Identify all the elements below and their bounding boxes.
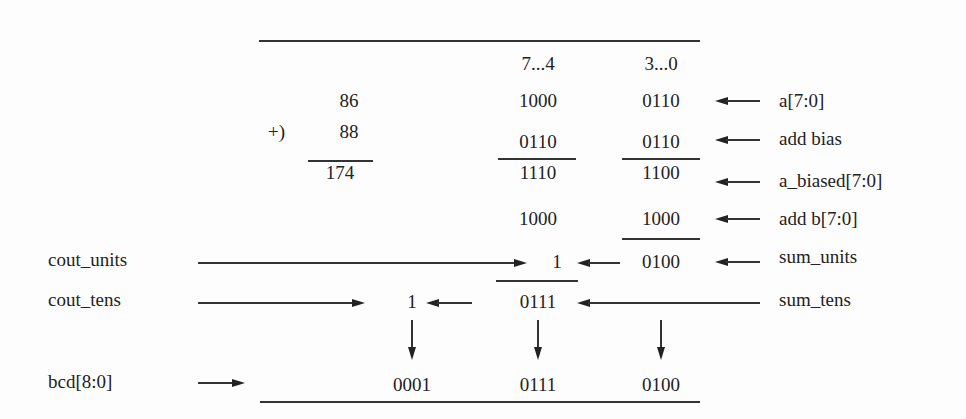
arrow-shaft (537, 320, 539, 348)
label-sum-units: sum_units (779, 246, 857, 268)
label-cout-units: cout_units (48, 249, 127, 271)
arrow-shaft (660, 320, 662, 348)
label-biased: a_biased[7:0] (779, 170, 882, 192)
arrow-shaft (398, 262, 514, 264)
label-bias: add bias (779, 128, 842, 150)
header-bits-7-4: 7...4 (521, 53, 554, 75)
decimal-sum: 174 (326, 162, 355, 184)
units-low: 0100 (642, 251, 680, 273)
bottom-rule (260, 401, 700, 403)
arrow-shaft (588, 262, 620, 264)
header-bits-3-0: 3...0 (644, 53, 677, 75)
bcd-hundreds: 0001 (393, 374, 431, 396)
tens-carry: 1 (407, 291, 417, 313)
a-high: 1000 (519, 90, 557, 112)
arrow-shaft (437, 302, 472, 304)
arrow-shaft (726, 139, 760, 141)
b-high: 1000 (519, 208, 557, 230)
arrow-shaft (198, 302, 352, 304)
arrow-shaft (588, 302, 760, 304)
arrow-shaft (198, 382, 232, 384)
bias-high: 0110 (519, 131, 556, 153)
arrow-down-icon (657, 347, 665, 360)
bcd-units: 0100 (642, 374, 680, 396)
bcd-tens: 0111 (520, 374, 557, 396)
units-carry: 1 (552, 251, 562, 273)
arrow-right-icon (352, 299, 365, 307)
arrow-right-icon (232, 379, 245, 387)
units-carry-rule (496, 280, 578, 282)
arrow-down-icon (534, 347, 542, 360)
biased-high: 1110 (520, 162, 557, 184)
bias-low: 0110 (642, 131, 679, 153)
bias-low-rule (622, 158, 700, 160)
decimal-a: 86 (340, 90, 359, 112)
label-sum-tens: sum_tens (779, 289, 851, 311)
biased-low: 1100 (642, 162, 679, 184)
arrow-shaft (726, 261, 760, 263)
label-a: a[7:0] (779, 90, 824, 112)
arrow-down-icon (408, 347, 416, 360)
arrow-shaft (726, 218, 760, 220)
a-low: 0110 (642, 90, 679, 112)
decimal-b: 88 (340, 121, 359, 143)
arrow-right-icon (514, 259, 527, 267)
label-b: add b[7:0] (779, 208, 858, 230)
top-rule (259, 40, 700, 42)
arrow-shaft (726, 100, 760, 102)
arrow-shaft (726, 181, 760, 183)
plus-sign: +) (268, 121, 285, 143)
arrow-shaft (411, 320, 413, 348)
b-low-rule (622, 238, 700, 240)
bias-high-rule (498, 158, 576, 160)
tens-high: 0111 (520, 291, 557, 313)
b-low: 1000 (642, 208, 680, 230)
arrow-shaft (198, 262, 398, 264)
label-cout-tens: cout_tens (48, 289, 121, 311)
label-bcd: bcd[8:0] (48, 371, 112, 393)
